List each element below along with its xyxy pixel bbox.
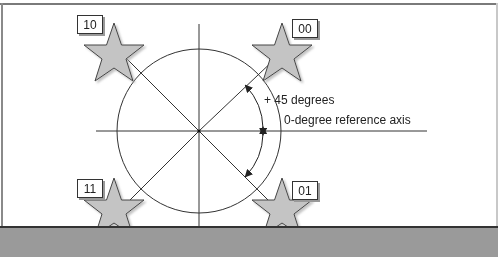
bottom-bar (0, 226, 498, 257)
angle-annotation: + 45 degrees (264, 93, 334, 107)
label-10: 10 (77, 15, 103, 34)
axis-annotation: 0-degree reference axis (284, 113, 411, 127)
label-00: 00 (292, 19, 318, 38)
label-01: 01 (292, 181, 318, 200)
label-11: 11 (77, 179, 103, 198)
vector-01 (199, 131, 272, 204)
vector-11 (126, 131, 199, 204)
constellation-diagram (0, 0, 498, 257)
origin-dot (197, 129, 200, 132)
vector-10 (126, 58, 199, 131)
angle-arc-upper (246, 86, 263, 128)
angle-arc-lower (246, 134, 263, 176)
